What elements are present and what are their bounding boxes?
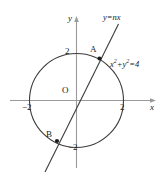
y-axis-label: y — [68, 14, 72, 23]
x-tick-label-2: 2 — [120, 103, 125, 112]
circle-eq-tail: =4 — [129, 59, 139, 69]
x-tick-label-neg2: −2 — [22, 103, 32, 112]
x-axis — [10, 98, 156, 103]
x-axis-label: x — [150, 103, 154, 112]
origin-label: O — [62, 86, 69, 95]
point-label-a: A — [90, 45, 97, 54]
y-tick-label-neg2: −2 — [68, 143, 78, 152]
y-tick-label-2: 2 — [65, 47, 70, 56]
geometry-figure: x y O −2 2 2 −2 A B y=nx x2+y2=4 — [0, 0, 164, 178]
line-curve — [45, 24, 119, 172]
line-equation-label: y=nx — [103, 13, 121, 22]
point-b-dot — [55, 139, 59, 143]
figure-canvas — [0, 0, 164, 178]
point-a-dot — [97, 56, 101, 60]
circle-eq-mid: +y — [117, 59, 127, 69]
point-label-b: B — [46, 130, 52, 139]
circle-equation-label: x2+y2=4 — [110, 58, 139, 68]
